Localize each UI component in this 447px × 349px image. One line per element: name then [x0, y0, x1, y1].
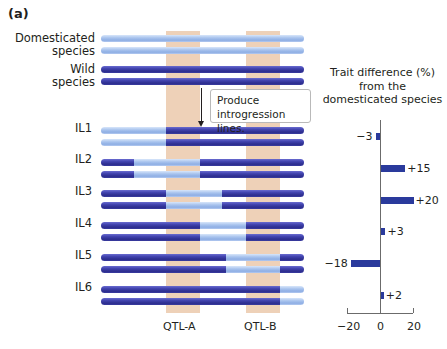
domesticated-segment [280, 298, 304, 305]
domesticated-segment [200, 234, 246, 241]
domesticated-label: Domesticated species [0, 32, 95, 58]
chart-zero-axis [380, 120, 381, 313]
chart-title: Trait difference (%) from the domesticat… [318, 66, 447, 107]
chart-title-line2: from the [318, 80, 447, 94]
arrow-line [201, 88, 202, 122]
bar-il3 [381, 197, 414, 204]
domesticated-segment [101, 35, 304, 42]
wild-segment [280, 254, 304, 261]
chromosome-il2-1 [101, 159, 304, 166]
domesticated-label-line2: species [0, 45, 95, 58]
wild-segment [101, 286, 280, 293]
il4-label: IL4 [0, 217, 92, 230]
qtl-b-label: QTL-B [244, 320, 276, 333]
il2-label: IL2 [0, 153, 92, 166]
bar-value-label-il2: +15 [407, 163, 430, 174]
wild-segment [101, 254, 226, 261]
wild-label-line2: species [0, 76, 95, 89]
x-tick-label-0: 0 [377, 320, 384, 333]
wild-segment [101, 202, 166, 209]
chromosome-domesticated-2 [101, 47, 304, 54]
wild-segment [101, 66, 304, 73]
wild-segment [101, 234, 200, 241]
chromosome-il2-2 [101, 171, 304, 178]
bar-value-label-il1: −3 [356, 131, 372, 142]
bar-il1 [376, 133, 381, 140]
wild-segment [101, 190, 166, 197]
wild-segment [200, 171, 304, 178]
chromosome-il6-1 [101, 286, 304, 293]
domesticated-segment [166, 202, 222, 209]
bar-il2 [381, 165, 406, 172]
chromosome-wild-2 [101, 78, 304, 85]
wild-segment [101, 266, 226, 273]
chromosome-il4-2 [101, 234, 304, 241]
chromosome-il5-2 [101, 266, 304, 273]
chart-title-line3: domesticated species [318, 93, 447, 107]
callout-line1: Produce [217, 93, 310, 107]
bar-il5 [351, 260, 381, 267]
domesticated-segment [226, 254, 280, 261]
bar-value-label-il5: −18 [325, 258, 348, 269]
callout-line2: introgression lines. [217, 107, 310, 135]
wild-segment [101, 222, 200, 229]
domesticated-segment [200, 222, 246, 229]
bar-il6 [381, 292, 384, 299]
wild-segment [101, 171, 134, 178]
wild-segment [246, 222, 304, 229]
wild-segment [280, 266, 304, 273]
domesticated-segment [134, 159, 200, 166]
x-tick-neg20 [347, 308, 348, 313]
x-tick-label-neg20: −20 [337, 320, 360, 333]
panel-label: (a) [8, 6, 29, 21]
wild-segment [166, 139, 304, 146]
wild-segment [101, 78, 304, 85]
chromosome-il3-1 [101, 190, 304, 197]
domesticated-segment [134, 171, 200, 178]
chart-x-axis [347, 313, 413, 314]
chart-title-line1: Trait difference (%) [318, 66, 447, 80]
il1-label: IL1 [0, 122, 92, 135]
chromosome-il4-1 [101, 222, 304, 229]
wild-segment [101, 159, 134, 166]
domesticated-segment [101, 139, 166, 146]
bar-value-label-il3: +20 [416, 195, 439, 206]
bar-value-label-il6: +2 [386, 290, 402, 301]
wild-segment [222, 190, 304, 197]
chromosome-domesticated-1 [101, 35, 304, 42]
x-tick-20 [413, 308, 414, 313]
il6-label: IL6 [0, 281, 92, 294]
domesticated-segment [166, 190, 222, 197]
wild-label: Wild species [0, 63, 95, 89]
wild-segment [222, 202, 304, 209]
chromosome-il3-2 [101, 202, 304, 209]
chromosome-il6-2 [101, 298, 304, 305]
il3-label: IL3 [0, 185, 92, 198]
callout-box: Produce introgression lines. [210, 89, 311, 123]
chromosome-il5-1 [101, 254, 304, 261]
x-tick-0 [380, 308, 381, 313]
x-tick-label-20: 20 [407, 320, 421, 333]
qtl-a-label: QTL-A [163, 320, 196, 333]
domesticated-segment [101, 47, 304, 54]
domesticated-segment [280, 286, 304, 293]
wild-segment [200, 159, 304, 166]
wild-segment [101, 298, 280, 305]
wild-segment [246, 234, 304, 241]
domesticated-segment [226, 266, 280, 273]
bar-il4 [381, 228, 386, 235]
chromosome-wild-1 [101, 66, 304, 73]
bar-value-label-il4: +3 [387, 226, 403, 237]
arrow-down-icon [198, 121, 204, 127]
domesticated-segment [101, 127, 166, 134]
chromosome-il1-2 [101, 139, 304, 146]
il5-label: IL5 [0, 249, 92, 262]
